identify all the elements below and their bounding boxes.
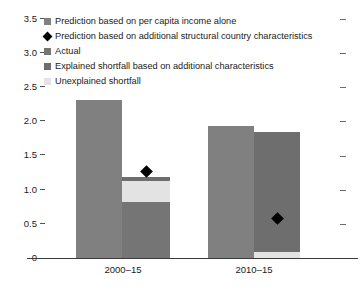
legend-swatch-square-icon xyxy=(44,63,51,70)
legend-label: Explained shortfall based on additional … xyxy=(55,61,274,72)
legend-item-prediction-structural[interactable]: Prediction based on additional structura… xyxy=(44,29,344,44)
segment-actual-2000-15[interactable] xyxy=(122,202,170,258)
legend-swatch-square-icon xyxy=(44,78,51,85)
x-axis-baseline xyxy=(27,258,358,259)
x-axis-label-2010-15: 2010–15 xyxy=(214,264,294,275)
legend-swatch-square-icon xyxy=(44,18,51,25)
legend-label: Actual xyxy=(55,46,81,57)
legend-label: Unexplained shortfall xyxy=(55,76,141,87)
legend-item-prediction-income[interactable]: Prediction based on per capita income al… xyxy=(44,14,344,29)
legend-label: Prediction based on per capita income al… xyxy=(55,16,236,27)
bar-stack-2010-15[interactable] xyxy=(254,132,300,258)
legend-item-explained-shortfall[interactable]: Explained shortfall based on additional … xyxy=(44,59,344,74)
chart-container: 3.5 3.0 2.5 2.0 1.5 1.0 0.5 0 xyxy=(0,0,358,289)
bar-prediction-income-2010-15[interactable] xyxy=(208,126,254,258)
legend-item-actual[interactable]: Actual xyxy=(44,44,344,59)
bar-stack-2000-15[interactable] xyxy=(122,177,170,258)
chart-legend: Prediction based on per capita income al… xyxy=(44,14,344,89)
legend-swatch-diamond-icon xyxy=(43,32,53,42)
x-axis-label-2000-15: 2000–15 xyxy=(83,264,163,275)
segment-unexplained-shortfall-2000-15[interactable] xyxy=(122,181,170,202)
segment-explained-shortfall-2010-15[interactable] xyxy=(254,132,300,252)
bar-prediction-income-2000-15[interactable] xyxy=(76,100,122,258)
legend-item-unexplained-shortfall[interactable]: Unexplained shortfall xyxy=(44,74,344,89)
legend-swatch-square-icon xyxy=(44,48,51,55)
legend-label: Prediction based on additional structura… xyxy=(55,31,312,42)
